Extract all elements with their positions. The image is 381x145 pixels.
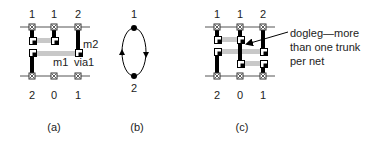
via-icon (261, 61, 268, 68)
via-icon (215, 37, 222, 44)
via-icon (30, 38, 37, 45)
node-1 (131, 25, 137, 31)
top-pin-label: 1 (214, 8, 220, 20)
top-pin-label: 1 (29, 8, 35, 20)
top-pin-label: 1 (51, 8, 57, 20)
via-icon (238, 37, 245, 44)
pin-icon (237, 24, 243, 30)
pin-icon (237, 73, 243, 79)
pin-icon (214, 73, 220, 79)
annotation-line: dogleg—more (290, 27, 359, 39)
m1-label: m1 (53, 56, 68, 68)
top-pin-label: 1 (237, 8, 243, 20)
via-icon (261, 49, 268, 56)
annotation-arrow (247, 32, 288, 44)
annotation-line: than one trunk (290, 41, 361, 53)
bottom-pin-label: 0 (51, 89, 57, 101)
arrow-down-icon (143, 52, 149, 58)
bottom-pin-label: 2 (214, 89, 220, 101)
channel-routing-diagram: 1 1 2 m2 m1 via1 2 0 1 (a) 1 (0, 0, 381, 145)
caption-c: (c) (236, 121, 249, 133)
pin-icon (214, 24, 220, 30)
via-icon (215, 49, 222, 56)
pin-icon (29, 24, 35, 30)
via1-label: via1 (74, 56, 94, 68)
via-icon (52, 38, 59, 45)
pin-icon (260, 24, 266, 30)
top-pin-label: 2 (75, 8, 81, 20)
panel-c: 1 1 2 dogleg—more than one trunk per net (205, 8, 361, 133)
node-label: 2 (131, 82, 137, 94)
arrow-up-icon (119, 49, 125, 55)
pin-icon (51, 73, 57, 79)
bottom-pin-label: 0 (237, 89, 243, 101)
caption-b: (b) (130, 121, 143, 133)
pin-icon (51, 24, 57, 30)
panel-a: 1 1 2 m2 m1 via1 2 0 1 (a) (20, 8, 98, 133)
node-label: 1 (131, 8, 137, 20)
pin-icon (75, 73, 81, 79)
node-2 (131, 73, 137, 79)
cycle-edge (122, 28, 146, 76)
bottom-pin-label: 1 (75, 89, 81, 101)
bottom-pin-label: 1 (260, 89, 266, 101)
pin-icon (260, 73, 266, 79)
bottom-pin-label: 2 (29, 89, 35, 101)
via-icon (238, 61, 245, 68)
pin-icon (75, 24, 81, 30)
panel-b: 1 2 (b) (119, 8, 149, 133)
m2-branch (238, 27, 242, 65)
top-pin-label: 2 (260, 8, 266, 20)
via-icon (30, 50, 37, 57)
annotation-line: per net (290, 55, 324, 67)
caption-a: (a) (47, 121, 60, 133)
pin-icon (29, 73, 35, 79)
m2-label: m2 (83, 38, 98, 50)
